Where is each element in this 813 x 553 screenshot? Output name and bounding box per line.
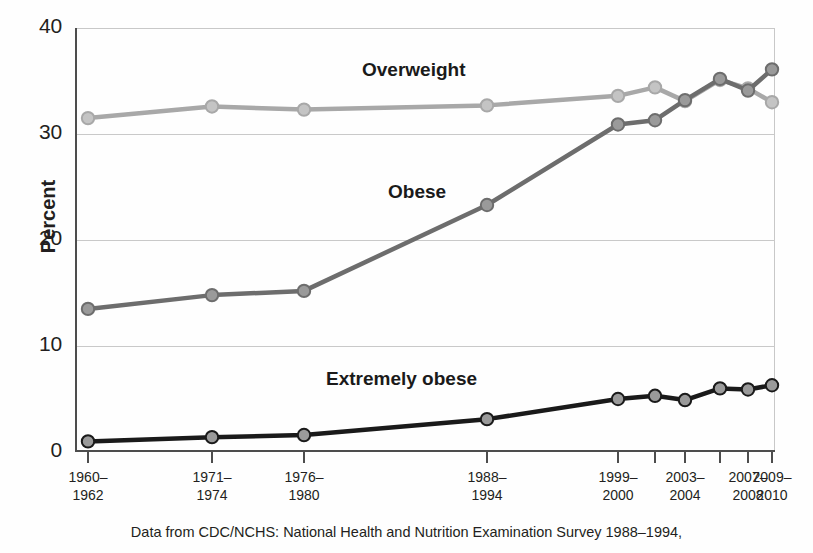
data-point[interactable] bbox=[679, 94, 691, 106]
series-overweight bbox=[82, 74, 778, 125]
data-point[interactable] bbox=[206, 431, 218, 443]
series-label-obese: Obese bbox=[388, 181, 446, 203]
data-point[interactable] bbox=[766, 379, 778, 391]
data-point[interactable] bbox=[298, 285, 310, 297]
data-point[interactable] bbox=[481, 199, 493, 211]
source-note-line2 bbox=[0, 545, 813, 553]
chart-canvas: 403020100 Percent 1960–19621971–19741976… bbox=[0, 0, 813, 553]
data-point[interactable] bbox=[481, 99, 493, 111]
source-note-line1: Data from CDC/NCHS: National Health and … bbox=[0, 524, 813, 540]
data-point[interactable] bbox=[82, 303, 94, 315]
data-point[interactable] bbox=[206, 289, 218, 301]
data-point[interactable] bbox=[612, 90, 624, 102]
series-label-extremely-obese: Extremely obese bbox=[326, 368, 477, 390]
series-label-overweight: Overweight bbox=[362, 59, 465, 81]
data-point[interactable] bbox=[612, 393, 624, 405]
data-point[interactable] bbox=[742, 383, 754, 395]
series-layer bbox=[0, 0, 813, 553]
data-point[interactable] bbox=[82, 112, 94, 124]
data-point[interactable] bbox=[298, 429, 310, 441]
data-point[interactable] bbox=[766, 63, 778, 75]
data-point[interactable] bbox=[206, 100, 218, 112]
data-point[interactable] bbox=[649, 390, 661, 402]
data-point[interactable] bbox=[679, 394, 691, 406]
series-line bbox=[88, 385, 772, 441]
data-point[interactable] bbox=[82, 435, 94, 447]
data-point[interactable] bbox=[612, 118, 624, 130]
data-point[interactable] bbox=[298, 103, 310, 115]
data-point[interactable] bbox=[649, 114, 661, 126]
data-point[interactable] bbox=[481, 413, 493, 425]
data-point[interactable] bbox=[766, 96, 778, 108]
data-point[interactable] bbox=[714, 382, 726, 394]
data-point[interactable] bbox=[649, 81, 661, 93]
data-point[interactable] bbox=[714, 73, 726, 85]
data-point[interactable] bbox=[742, 84, 754, 96]
